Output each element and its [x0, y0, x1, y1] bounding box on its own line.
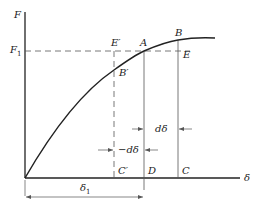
- point-e-prime-label: E′: [111, 38, 121, 48]
- y-axis-label: F: [14, 10, 21, 20]
- arrowhead: [138, 195, 143, 199]
- f1-label: F1: [10, 45, 21, 58]
- point-c-prime-label: C′: [118, 166, 128, 176]
- point-b-label: B: [175, 28, 182, 38]
- arrowhead: [138, 127, 143, 131]
- delta1-subscript: 1: [86, 188, 90, 196]
- d-delta-label: dδ: [155, 124, 167, 134]
- arrowhead: [108, 148, 113, 152]
- arrowhead: [145, 148, 150, 152]
- point-b-prime-label: B′: [119, 68, 129, 78]
- diagram-graphics: [0, 0, 260, 207]
- arrowhead: [179, 127, 184, 131]
- point-c-label: C: [182, 166, 190, 176]
- f1-symbol: F: [10, 44, 17, 55]
- arrowhead: [26, 195, 31, 199]
- x-axis-label: δ: [244, 173, 250, 183]
- point-d-label: D: [148, 166, 156, 176]
- delta1-label: δ1: [80, 183, 91, 196]
- f1-subscript: 1: [17, 50, 21, 58]
- neg-d-delta-label: −dδ: [118, 145, 139, 155]
- point-a-label: A: [140, 38, 147, 48]
- force-displacement-diagram: F F1 E′ A B B′ E dδ −dδ C′ D C δ δ1: [0, 0, 260, 207]
- point-e-label: E: [183, 50, 190, 60]
